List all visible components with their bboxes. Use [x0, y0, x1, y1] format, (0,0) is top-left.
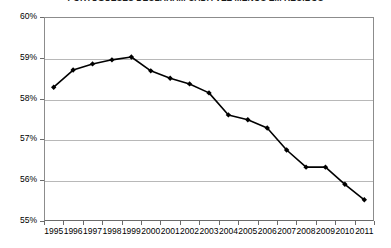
- gridline: [45, 59, 373, 60]
- plot-area: [44, 17, 374, 221]
- x-axis-tick-label: 2001: [161, 226, 180, 236]
- x-axis-tick: [374, 221, 375, 225]
- x-axis-tick-label: 2003: [200, 226, 219, 236]
- y-axis-tick-label: 56%: [20, 175, 37, 184]
- x-axis-tick: [102, 221, 103, 225]
- y-axis-tick-label: 60%: [20, 12, 37, 21]
- x-axis: 1995199619971998199920002001200220032004…: [0, 226, 391, 240]
- y-axis-tick: [40, 139, 44, 140]
- y-axis-tick-label: 57%: [20, 134, 37, 143]
- y-axis-tick: [40, 17, 44, 18]
- x-axis-tick-label: 1996: [64, 226, 83, 236]
- x-axis-tick: [258, 221, 259, 225]
- x-axis-tick: [122, 221, 123, 225]
- x-axis-tick-label: 1997: [83, 226, 102, 236]
- x-axis-tick-label: 2007: [277, 226, 296, 236]
- x-axis-tick: [141, 221, 142, 225]
- x-axis-tick: [355, 221, 356, 225]
- chart-title: PORTUGUESES DECLARAM CADA VEZ MENOS EM R…: [0, 0, 391, 1]
- gridline: [45, 100, 373, 101]
- y-axis: 55%56%57%58%59%60%: [0, 0, 44, 248]
- x-axis-tick-label: 2010: [335, 226, 354, 236]
- x-axis-tick: [219, 221, 220, 225]
- x-axis-tick-label: 2005: [238, 226, 257, 236]
- x-axis-tick-label: 2009: [316, 226, 335, 236]
- x-axis-tick: [63, 221, 64, 225]
- gridline: [45, 181, 373, 182]
- x-axis-tick-label: 1998: [102, 226, 121, 236]
- y-axis-tick-label: 55%: [20, 216, 37, 225]
- x-axis-tick: [180, 221, 181, 225]
- x-axis-tick-label: 1999: [122, 226, 141, 236]
- y-axis-tick-label: 58%: [20, 94, 37, 103]
- gridline: [45, 140, 373, 141]
- y-axis-tick: [40, 58, 44, 59]
- x-axis-tick: [316, 221, 317, 225]
- x-axis-tick: [83, 221, 84, 225]
- y-axis-tick: [40, 180, 44, 181]
- chart-container: PORTUGUESES DECLARAM CADA VEZ MENOS EM R…: [0, 0, 391, 248]
- x-axis-tick-label: 2011: [355, 226, 373, 236]
- x-axis-tick-label: 1995: [44, 226, 63, 236]
- x-axis-tick: [160, 221, 161, 225]
- x-axis-tick-label: 2006: [258, 226, 277, 236]
- x-axis-tick-label: 2004: [219, 226, 238, 236]
- x-axis-tick: [296, 221, 297, 225]
- x-axis-tick: [44, 221, 45, 225]
- x-axis-tick-label: 2008: [297, 226, 316, 236]
- x-axis-tick-label: 2002: [180, 226, 199, 236]
- y-axis-tick: [40, 99, 44, 100]
- y-axis-tick-label: 59%: [20, 53, 37, 62]
- x-axis-tick: [277, 221, 278, 225]
- x-axis-tick: [335, 221, 336, 225]
- x-axis-tick: [238, 221, 239, 225]
- x-axis-tick: [199, 221, 200, 225]
- x-axis-tick-label: 2000: [141, 226, 160, 236]
